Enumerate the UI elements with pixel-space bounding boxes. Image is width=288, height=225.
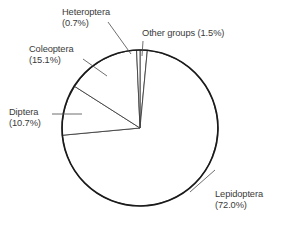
pie-label-other-groups-name: Other groups xyxy=(142,28,195,38)
pie-label-coleoptera-name: Coleoptera xyxy=(29,44,73,55)
pie-label-other-groups: Other groups (1.5%) xyxy=(142,28,224,39)
pie-chart: Heteroptera (0.7%) Other groups (1.5%) C… xyxy=(0,0,288,225)
pie-label-heteroptera-name: Heteroptera xyxy=(62,7,110,18)
pie-label-lepidoptera-name: Lepidoptera xyxy=(215,189,263,200)
pie-label-coleoptera-percent: (15.1%) xyxy=(29,55,73,66)
leader-line-heteroptera xyxy=(108,22,131,54)
pie-label-diptera: Diptera (10.7%) xyxy=(9,107,41,130)
pie-label-heteroptera-percent: (0.7%) xyxy=(62,18,110,29)
pie-label-diptera-name: Diptera xyxy=(9,107,41,118)
pie-label-coleoptera: Coleoptera (15.1%) xyxy=(29,44,73,67)
pie-label-lepidoptera: Lepidoptera (72.0%) xyxy=(215,189,263,212)
pie-label-other-groups-percent: (1.5%) xyxy=(198,28,225,38)
pie-label-lepidoptera-percent: (72.0%) xyxy=(215,200,263,211)
pie-label-heteroptera: Heteroptera (0.7%) xyxy=(62,7,110,30)
pie-label-diptera-percent: (10.7%) xyxy=(9,118,41,129)
